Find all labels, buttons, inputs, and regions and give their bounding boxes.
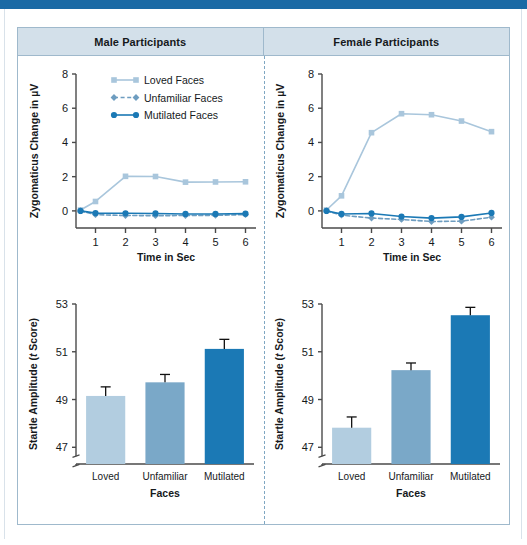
datapoint-loved-faces-6 — [489, 129, 495, 135]
datapoint-mutilated-faces-2 — [122, 210, 128, 216]
legend-marker-1 — [133, 94, 140, 101]
datapoint-mutilated-faces-0 — [323, 208, 329, 214]
bar-loved — [86, 396, 125, 464]
chart-female-zygomaticus: 02468123456Time in SecZygomaticus Change… — [264, 56, 510, 288]
datapoint-mutilated-faces-3 — [152, 210, 158, 216]
chart-female-startle: 47495153LovedUnfamiliarMutilatedFacesSta… — [264, 288, 510, 524]
y-axis-title-text: Startle Amplitude (t Score) — [27, 318, 39, 450]
category-label-unfamiliar: Unfamiliar — [388, 471, 434, 482]
datapoint-mutilated-faces-2 — [368, 210, 374, 216]
legend-marker-1 — [133, 112, 139, 118]
datapoint-loved-faces-5 — [459, 118, 465, 124]
figure-header: Male Participants Female Participants — [18, 28, 509, 56]
legend-label: Unfamiliar Faces — [144, 92, 223, 104]
y-tick-label-51: 51 — [56, 346, 68, 358]
bar-mutilated — [205, 349, 244, 464]
y-tick-label-2: 2 — [308, 171, 314, 183]
series-line-mutilated-faces — [81, 211, 246, 214]
y-tick-label-0: 0 — [308, 205, 314, 217]
datapoint-loved-faces-4 — [429, 112, 435, 118]
x-tick-label-3: 3 — [398, 236, 404, 248]
y-tick-label-4: 4 — [308, 136, 314, 148]
x-tick-label-4: 4 — [428, 236, 434, 248]
series-line-mutilated-faces — [327, 211, 492, 218]
figure-body: 02468123456Time in SecZygomaticus Change… — [18, 56, 509, 524]
panel-title-female: Female Participants — [264, 28, 510, 55]
y-tick-label-8: 8 — [62, 68, 68, 80]
datapoint-mutilated-faces-5 — [212, 211, 218, 217]
chart-male-startle: 47495153LovedUnfamiliarMutilatedFacesSta… — [18, 288, 264, 524]
y-tick-label-53: 53 — [302, 298, 314, 310]
male-zygomaticus-plot: 02468123456Time in SecZygomaticus Change… — [18, 56, 264, 288]
chart-male-zygomaticus: 02468123456Time in SecZygomaticus Change… — [18, 56, 264, 288]
datapoint-mutilated-faces-1 — [92, 210, 98, 216]
datapoint-mutilated-faces-3 — [398, 213, 404, 219]
datapoint-mutilated-faces-6 — [488, 210, 494, 216]
panel-male: 02468123456Time in SecZygomaticus Change… — [18, 56, 264, 524]
bar-mutilated — [451, 315, 490, 464]
y-axis-title: Zygomaticus Change in µV — [28, 84, 40, 218]
category-label-mutilated: Mutilated — [450, 471, 491, 482]
x-tick-label-4: 4 — [182, 236, 188, 248]
legend-marker-1 — [133, 77, 139, 83]
datapoint-mutilated-faces-4 — [428, 215, 434, 221]
x-tick-label-1: 1 — [338, 236, 344, 248]
y-tick-label-49: 49 — [302, 394, 314, 406]
x-tick-label-5: 5 — [458, 236, 464, 248]
category-label-loved: Loved — [92, 471, 119, 482]
y-tick-label-6: 6 — [62, 102, 68, 114]
x-tick-label-2: 2 — [368, 236, 374, 248]
male-startle-plot: 47495153LovedUnfamiliarMutilatedFacesSta… — [18, 288, 264, 524]
datapoint-mutilated-faces-1 — [338, 211, 344, 217]
y-axis-title: Startle Amplitude (t Score) — [273, 318, 285, 450]
y-tick-label-47: 47 — [56, 441, 68, 453]
y-tick-label-8: 8 — [308, 68, 314, 80]
x-tick-label-5: 5 — [212, 236, 218, 248]
datapoint-loved-faces-1 — [93, 199, 99, 205]
female-startle-plot: 47495153LovedUnfamiliarMutilatedFacesSta… — [264, 288, 510, 524]
datapoint-loved-faces-5 — [213, 179, 219, 185]
y-axis-title-text: Startle Amplitude (t Score) — [273, 318, 285, 450]
series-line-loved-faces — [327, 114, 492, 210]
y-axis-title: Startle Amplitude (t Score) — [27, 318, 39, 450]
y-tick-label-49: 49 — [56, 394, 68, 406]
legend-item-unfamiliar-faces: Unfamiliar Faces — [111, 92, 223, 104]
figure-container: Male Participants Female Participants 02… — [17, 27, 510, 525]
datapoint-loved-faces-6 — [243, 179, 249, 185]
category-label-loved: Loved — [338, 471, 365, 482]
datapoint-mutilated-faces-6 — [242, 211, 248, 217]
datapoint-loved-faces-1 — [339, 193, 345, 199]
female-zygomaticus-plot: 02468123456Time in SecZygomaticus Change… — [264, 56, 510, 288]
legend-item-mutilated-faces: Mutilated Faces — [111, 109, 218, 121]
x-tick-label-1: 1 — [92, 236, 98, 248]
x-tick-label-2: 2 — [122, 236, 128, 248]
panel-female: 02468123456Time in SecZygomaticus Change… — [264, 56, 510, 524]
x-tick-label-6: 6 — [242, 236, 248, 248]
y-tick-label-51: 51 — [302, 346, 314, 358]
legend-item-loved-faces: Loved Faces — [111, 74, 204, 86]
panel-title-male: Male Participants — [18, 28, 264, 55]
datapoint-mutilated-faces-5 — [458, 214, 464, 220]
datapoint-mutilated-faces-4 — [182, 211, 188, 217]
category-label-unfamiliar: Unfamiliar — [142, 471, 188, 482]
page-edge-right — [521, 9, 522, 539]
x-tick-label-3: 3 — [152, 236, 158, 248]
legend-label: Loved Faces — [144, 74, 204, 86]
x-axis-title: Time in Sec — [383, 251, 441, 263]
x-axis-title: Faces — [150, 487, 180, 499]
bar-loved — [332, 428, 371, 464]
x-axis-title: Faces — [396, 487, 426, 499]
datapoint-loved-faces-3 — [399, 111, 405, 117]
datapoint-loved-faces-3 — [153, 174, 159, 180]
y-tick-label-47: 47 — [302, 441, 314, 453]
x-tick-label-6: 6 — [488, 236, 494, 248]
y-tick-label-6: 6 — [308, 102, 314, 114]
datapoint-loved-faces-4 — [183, 179, 189, 185]
bar-unfamiliar — [391, 370, 430, 464]
legend-label: Mutilated Faces — [144, 109, 218, 121]
legend-marker-0 — [111, 94, 118, 101]
legend-marker-0 — [111, 77, 117, 83]
datapoint-mutilated-faces-0 — [77, 208, 83, 214]
legend-marker-0 — [111, 112, 117, 118]
category-label-mutilated: Mutilated — [204, 471, 245, 482]
